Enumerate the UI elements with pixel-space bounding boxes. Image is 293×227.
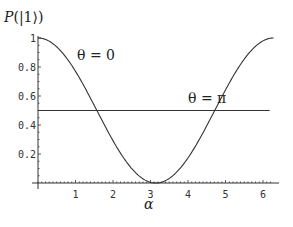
y-tick-label: 1 <box>30 33 36 44</box>
y-tick-label: 0.8 <box>18 62 36 73</box>
y-tick-labels: 0.20.40.60.81 <box>18 33 36 160</box>
x-tick-labels: 123456 <box>73 189 267 200</box>
x-tick-label: 2 <box>110 189 116 200</box>
annotation-theta-0: θ = 0 <box>77 47 115 63</box>
x-axis-label: α <box>144 196 154 212</box>
y-axis-label: P(|1⟩) <box>3 9 43 26</box>
probability-chart: 123456 0.20.40.60.81 P(|1⟩) α θ = 0 θ = … <box>0 0 293 227</box>
y-tick-label: 0.2 <box>18 149 36 160</box>
annotation-theta-pi: θ = π <box>188 90 226 106</box>
x-tick-label: 6 <box>260 189 266 200</box>
y-tick-label: 0.6 <box>18 91 36 102</box>
x-tick-label: 4 <box>185 189 191 200</box>
x-tick-label: 5 <box>223 189 229 200</box>
x-tick-label: 1 <box>73 189 79 200</box>
y-tick-label: 0.4 <box>18 120 36 131</box>
